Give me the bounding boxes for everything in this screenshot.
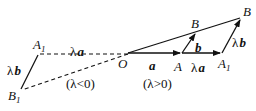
label-lambda-a-right: λ a xyxy=(191,61,205,74)
caption-lambda-negative: (λ<0) xyxy=(66,77,95,90)
label-lambda-a-left: λ a xyxy=(70,45,84,58)
line-O-B-far xyxy=(128,18,240,53)
label-A1-left: A1 xyxy=(33,38,45,54)
label-B1-left: B1 xyxy=(8,89,20,105)
vector-b xyxy=(182,34,195,53)
label-lambda-b-right: λ b xyxy=(232,36,246,49)
label-A1-right: A1 xyxy=(218,57,230,73)
caption-lambda-positive: (λ>0) xyxy=(143,77,172,90)
label-A: A xyxy=(174,60,182,73)
label-O: O xyxy=(118,57,127,70)
label-lambda-b-left: λ b xyxy=(7,64,21,77)
label-b: b xyxy=(195,41,202,54)
segment-lambda-b-left xyxy=(21,55,38,89)
label-a: a xyxy=(149,59,156,72)
label-B-far: B xyxy=(243,5,251,18)
vector-diagram: A1 λ a λ b B1 (λ<0) O a A λ a A1 B b λ b… xyxy=(0,0,256,111)
label-B-mid: B xyxy=(191,17,199,30)
